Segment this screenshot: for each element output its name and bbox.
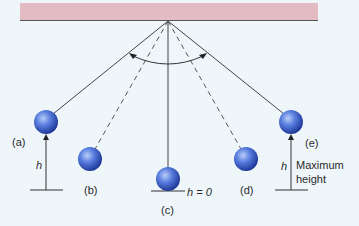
string-a xyxy=(53,21,168,114)
max-height-line1: Maximum xyxy=(296,160,344,171)
bob-b xyxy=(78,147,102,171)
arrow-left-icon xyxy=(129,53,137,59)
string-b xyxy=(95,21,168,149)
label-a: (a) xyxy=(12,137,25,148)
bob-c xyxy=(156,167,180,191)
bob-a xyxy=(34,110,58,134)
label-e: (e) xyxy=(305,138,318,149)
h-zero-label: h = 0 xyxy=(187,187,212,198)
arrow-up-icon xyxy=(43,134,49,140)
bob-d xyxy=(234,147,258,171)
string-d xyxy=(168,21,241,149)
diagram-canvas xyxy=(0,0,359,226)
h-label-left: h xyxy=(36,160,42,171)
arrow-right-icon xyxy=(199,53,207,59)
label-d: (d) xyxy=(240,185,253,196)
bob-e xyxy=(279,110,303,134)
arrow-up-icon xyxy=(288,134,294,140)
label-b: (b) xyxy=(84,185,97,196)
h-label-right: h xyxy=(281,161,287,172)
ceiling-bar xyxy=(20,3,318,20)
label-c: (c) xyxy=(161,205,174,216)
pendulum-diagram: (a) (b) (c) (d) (e) h h h = 0 Maximum he… xyxy=(0,0,359,226)
max-height-line2: height xyxy=(296,174,326,185)
string-e xyxy=(168,21,284,114)
